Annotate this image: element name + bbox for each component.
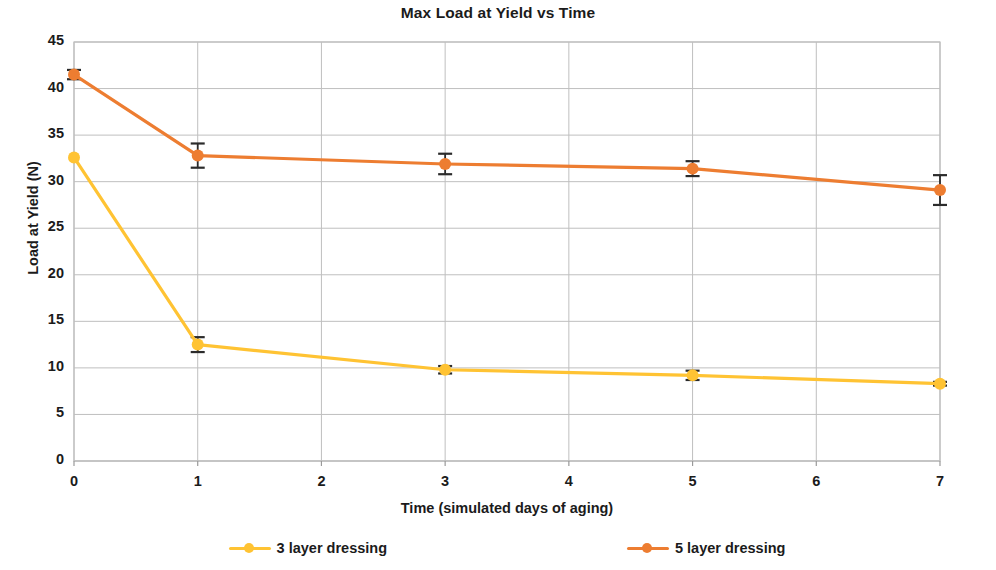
- y-tick-label: 30: [16, 172, 64, 188]
- x-tick-label: 6: [796, 473, 836, 489]
- legend-marker-icon: [627, 542, 669, 554]
- chart-container: Max Load at Yield vs Time Load at Yield …: [0, 0, 996, 570]
- data-point-0-4: [934, 378, 946, 390]
- legend-dot: [244, 543, 254, 553]
- series-line-0: [74, 157, 940, 383]
- plot-border: [74, 42, 940, 461]
- data-point-0-0: [68, 151, 80, 163]
- y-tick-label: 45: [16, 32, 64, 48]
- legend-item[interactable]: 3 layer dressing: [229, 540, 387, 556]
- y-tick-label: 0: [16, 451, 64, 467]
- y-tick-label: 5: [16, 404, 64, 420]
- data-point-0-1: [192, 339, 204, 351]
- y-tick-label: 10: [16, 358, 64, 374]
- legend-label: 3 layer dressing: [277, 540, 387, 556]
- series-line-1: [74, 75, 940, 190]
- x-tick-label: 5: [673, 473, 713, 489]
- legend-label: 5 layer dressing: [675, 540, 785, 556]
- data-point-1-2: [439, 158, 451, 170]
- legend-item[interactable]: 5 layer dressing: [627, 540, 785, 556]
- data-point-0-2: [439, 364, 451, 376]
- plot-area: [0, 0, 996, 570]
- data-point-1-1: [192, 150, 204, 162]
- data-point-1-3: [687, 163, 699, 175]
- legend-dot: [642, 543, 652, 553]
- data-point-1-4: [934, 184, 946, 196]
- x-tick-label: 2: [301, 473, 341, 489]
- x-axis-title: Time (simulated days of aging): [74, 500, 940, 516]
- data-point-0-3: [687, 369, 699, 381]
- y-tick-label: 20: [16, 265, 64, 281]
- y-tick-label: 35: [16, 125, 64, 141]
- x-tick-label: 1: [178, 473, 218, 489]
- x-tick-label: 7: [920, 473, 960, 489]
- legend-marker-icon: [229, 542, 271, 554]
- y-tick-label: 40: [16, 79, 64, 95]
- y-tick-label: 25: [16, 218, 64, 234]
- chart-legend: 3 layer dressing5 layer dressing: [74, 534, 940, 562]
- x-tick-label: 4: [549, 473, 589, 489]
- x-tick-label: 3: [425, 473, 465, 489]
- data-point-1-0: [68, 69, 80, 81]
- x-tick-label: 0: [54, 473, 94, 489]
- y-tick-label: 15: [16, 311, 64, 327]
